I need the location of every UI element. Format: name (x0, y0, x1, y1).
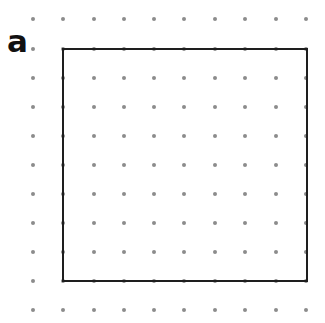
grid-dot (182, 308, 186, 312)
grid-dot (92, 17, 96, 21)
grid-dot (274, 17, 278, 21)
grid-dot (243, 17, 247, 21)
grid-dot (31, 105, 35, 109)
grid-dot (92, 308, 96, 312)
grid-dot (31, 250, 35, 254)
grid-dot (304, 17, 308, 21)
grid-dot (213, 308, 217, 312)
grid-dot (243, 308, 247, 312)
grid-dot (31, 163, 35, 167)
grid-dot (31, 47, 35, 51)
grid-dot (274, 308, 278, 312)
grid-dot (31, 192, 35, 196)
grid-dot (31, 279, 35, 283)
grid-dot (61, 308, 65, 312)
grid-dot (31, 134, 35, 138)
grid-dot (122, 308, 126, 312)
grid-dot (31, 221, 35, 225)
grid-dot (213, 17, 217, 21)
grid-dot (182, 17, 186, 21)
grid-dot (304, 308, 308, 312)
grid-dot (152, 308, 156, 312)
grid-dot (31, 17, 35, 21)
grid-dot (31, 76, 35, 80)
figure-label: a (7, 26, 28, 57)
grid-dot (31, 308, 35, 312)
dot-grid-canvas: a (0, 0, 325, 323)
grid-dot (152, 17, 156, 21)
grid-dot (122, 17, 126, 21)
square-shape (62, 48, 308, 282)
grid-dot (61, 17, 65, 21)
